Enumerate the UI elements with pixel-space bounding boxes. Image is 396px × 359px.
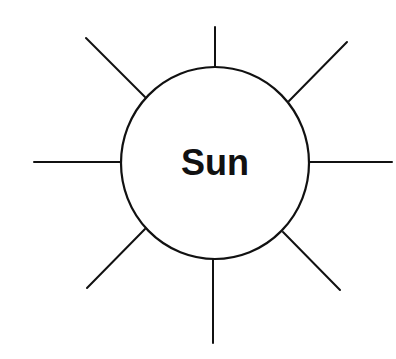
ray-top-right	[289, 42, 347, 101]
sun-label: Sun	[181, 142, 249, 183]
ray-bottom-right	[283, 232, 340, 290]
sun-diagram: Sun	[0, 0, 396, 359]
sun-rays	[34, 27, 392, 343]
ray-top-left	[86, 38, 145, 97]
ray-bottom-left	[87, 229, 145, 288]
